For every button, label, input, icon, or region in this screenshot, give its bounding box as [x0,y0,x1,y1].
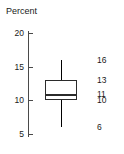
y-axis-tick-label-text: 10 [0,96,24,105]
median-line [45,94,77,96]
value-annotation-max: 16 [97,56,106,65]
y-axis-tick-label: 15 [0,63,24,72]
y-axis-tick-label: 10 [0,96,24,105]
value-annotation-min: 6 [97,123,102,132]
interquartile-box [45,80,77,100]
y-axis-tick-label-text: 20 [0,29,24,38]
y-axis-tick-label-text: 15 [0,63,24,72]
y-axis-tick-label-text: 5 [0,130,24,139]
y-axis-tick-mark [28,67,33,68]
upper-whisker [61,60,62,80]
y-axis-title: Percent [6,6,37,17]
y-axis-tick-label: 5 [0,130,24,139]
box-plot-chart: Percent 2015105 161311106 [0,0,124,154]
value-annotation-q1: 10 [97,96,106,105]
y-axis-tick-label: 20 [0,29,24,38]
y-axis-tick-mark [28,33,33,34]
lower-whisker [61,100,62,127]
y-axis-tick-mark [28,100,33,101]
y-axis-line [28,31,29,137]
y-axis-tick-mark [28,134,33,135]
value-annotation-q3: 13 [97,76,106,85]
